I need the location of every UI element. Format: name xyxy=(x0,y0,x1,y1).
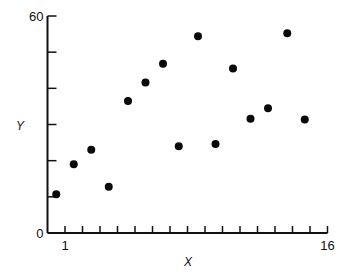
data-point xyxy=(142,79,150,87)
data-point xyxy=(283,29,291,37)
data-point xyxy=(229,64,237,72)
x-axis-label: X xyxy=(183,255,193,269)
axis-ticks xyxy=(48,16,328,233)
y-tick-label: 0 xyxy=(36,226,43,241)
data-point xyxy=(124,97,132,105)
data-point xyxy=(301,115,309,123)
data-point xyxy=(247,115,255,123)
data-point xyxy=(212,140,220,148)
x-tick-label: 16 xyxy=(320,238,334,253)
data-point xyxy=(52,190,60,198)
y-tick-label: 60 xyxy=(29,9,43,24)
data-points xyxy=(52,29,309,198)
data-point xyxy=(264,104,272,112)
tick-labels: 116060 xyxy=(29,9,335,253)
data-point xyxy=(194,32,202,40)
data-point xyxy=(70,160,78,168)
data-point xyxy=(175,142,183,150)
scatter-chart: 116060 X Y xyxy=(0,0,353,276)
y-axis-label: Y xyxy=(16,119,25,133)
data-point xyxy=(87,146,95,154)
data-point xyxy=(159,60,167,68)
data-point xyxy=(105,183,113,191)
x-tick-label: 1 xyxy=(61,238,68,253)
